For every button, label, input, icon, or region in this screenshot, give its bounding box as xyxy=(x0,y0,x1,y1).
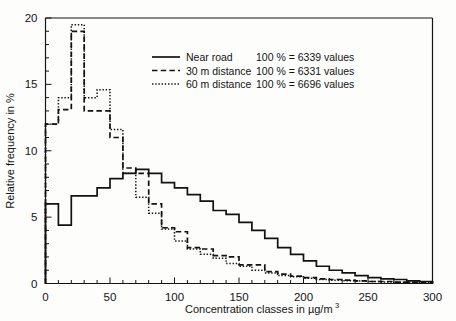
y-tick-label: 20 xyxy=(25,12,38,24)
legend-label: 30 m distance xyxy=(186,65,252,77)
x-tick-label: 250 xyxy=(358,291,377,303)
series-dotted xyxy=(46,25,433,284)
y-tick-label: 0 xyxy=(31,278,37,290)
x-tick-label: 200 xyxy=(294,291,313,303)
x-axis-title-base: Concentration classes in µg/m xyxy=(185,303,333,315)
chart-legend: Near road100 % = 6339 values30 m distanc… xyxy=(152,51,354,90)
y-tick-label: 15 xyxy=(25,78,38,90)
x-tick-label: 300 xyxy=(423,291,442,303)
x-axis-ticks xyxy=(46,278,433,284)
axis-lines xyxy=(46,18,433,284)
plot-axes xyxy=(46,18,433,284)
y-axis-ticks xyxy=(46,18,52,284)
y-tick-label: 10 xyxy=(25,145,38,157)
y-axis-tick-labels: 05101520 xyxy=(25,12,38,290)
x-tick-label: 0 xyxy=(42,291,48,303)
histogram-chart: 05101520 050100150200250300 Relative fre… xyxy=(0,0,456,321)
x-tick-label: 150 xyxy=(229,291,248,303)
x-tick-label: 50 xyxy=(104,291,117,303)
x-axis-title: Concentration classes in µg/m 3 xyxy=(185,301,339,315)
legend-label: 60 m distance xyxy=(186,78,252,90)
y-axis-title: Relative frequency in % xyxy=(4,93,16,209)
legend-label: Near road xyxy=(186,51,233,63)
x-tick-label: 100 xyxy=(165,291,184,303)
x-axis-tick-labels: 050100150200250300 xyxy=(42,291,442,303)
series-layer xyxy=(46,25,433,284)
chart-page: 05101520 050100150200250300 Relative fre… xyxy=(0,0,456,321)
series-solid xyxy=(46,169,433,283)
x-axis-title-exponent: 3 xyxy=(335,301,339,310)
y-tick-label: 5 xyxy=(31,211,37,223)
legend-note: 100 % = 6696 values xyxy=(256,78,354,90)
legend-note: 100 % = 6339 values xyxy=(256,51,354,63)
legend-note: 100 % = 6331 values xyxy=(256,65,354,77)
